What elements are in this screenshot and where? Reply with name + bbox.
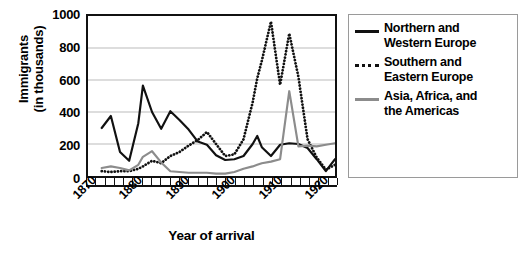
x-axis-tick-mark (105, 178, 106, 185)
legend-label: Northern andWestern Europe (384, 21, 476, 50)
legend-swatch-icon (355, 58, 379, 72)
legend-swatch-icon (355, 92, 379, 106)
legend-item[interactable]: Northern andWestern Europe (355, 21, 513, 50)
legend-label: Asia, Africa, andthe Americas (384, 89, 477, 118)
x-axis-tick-label: 1890 (163, 173, 192, 202)
legend-swatch-icon (355, 24, 379, 38)
x-axis-tick-mark (114, 178, 115, 185)
x-axis-tick-mark (207, 178, 208, 185)
x-axis-tick-mark (300, 178, 301, 185)
legend-label-line1: Northern and (384, 21, 476, 36)
legend-label-line1: Southern and (384, 55, 473, 70)
x-axis-tick-mark (337, 178, 338, 185)
chart-legend: Northern andWestern EuropeSouthern andEa… (348, 14, 518, 178)
chart-figure: Immigrants (in thousands) 10008006004002… (0, 0, 524, 255)
legend-item[interactable]: Southern andEastern Europe (355, 55, 513, 84)
x-axis-tick-mark (160, 178, 161, 185)
legend-label-line2: Western Europe (384, 36, 476, 51)
x-axis-tick-label: 1870 (70, 173, 99, 202)
legend-label-line2: the Americas (384, 104, 477, 119)
x-axis-tick-mark (244, 178, 245, 185)
legend-label-line2: Eastern Europe (384, 70, 473, 85)
x-axis-tick-mark (253, 178, 254, 185)
x-axis-tick-label: 1910 (256, 173, 285, 202)
x-axis-tick-mark (291, 178, 292, 185)
legend-label-line1: Asia, Africa, and (384, 89, 477, 104)
x-axis-title: Year of arrival (86, 228, 337, 243)
x-axis-tick-mark (198, 178, 199, 185)
legend-label: Southern andEastern Europe (384, 55, 473, 84)
legend-item[interactable]: Asia, Africa, andthe Americas (355, 89, 513, 118)
x-axis-tick-mark (151, 178, 152, 185)
